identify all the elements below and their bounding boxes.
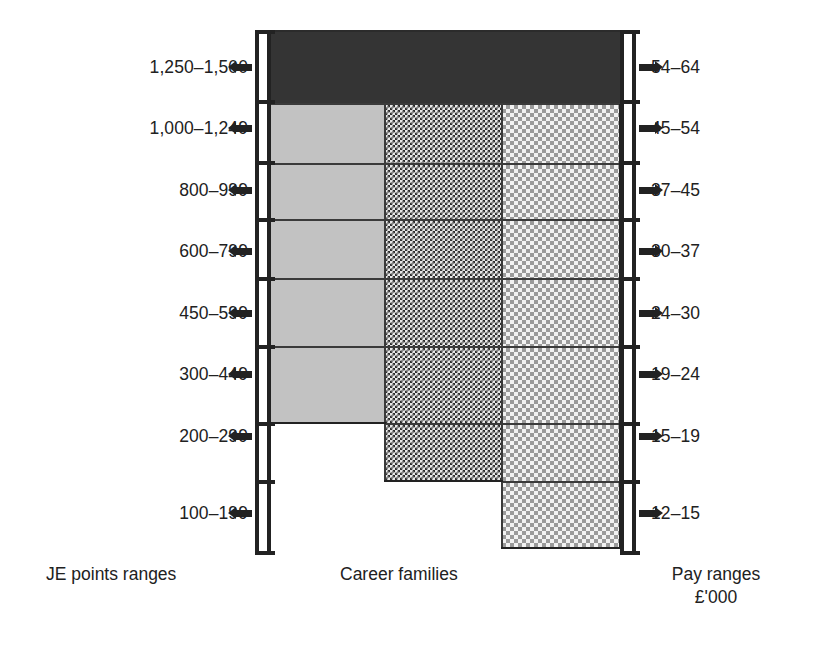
je-points-label-1: 1,250–1,500 <box>40 59 248 77</box>
left-tick-arrow-8 <box>235 510 252 517</box>
family3-band-5 <box>502 279 620 347</box>
left-axis-labels: 1,250–1,500 1,000–1,249 800–999 600–799 … <box>40 0 248 560</box>
je-points-label-2: 1,000–1,249 <box>40 120 248 138</box>
outline-family3-bottom <box>501 547 620 549</box>
right-axis-labels: 54–64 45–54 37–45 30–37 24–30 19–24 15–1… <box>651 0 820 560</box>
right-axis-div-6 <box>624 422 640 426</box>
left-axis-rail <box>255 30 271 555</box>
left-tick-arrow-4 <box>235 248 252 255</box>
left-axis-div-3 <box>259 218 275 222</box>
right-tick-arrow-6 <box>639 371 656 378</box>
left-axis-div-5 <box>259 345 275 349</box>
right-axis-div-2 <box>624 161 640 165</box>
left-axis-caption: JE points ranges <box>46 563 176 586</box>
right-tick-arrow-5 <box>639 310 656 317</box>
left-tick-arrow-2 <box>235 125 252 132</box>
career-family-grade-structure <box>255 30 636 555</box>
left-tick-arrow-3 <box>235 187 252 194</box>
pay-range-label-6: 19–24 <box>651 366 820 384</box>
center-caption: Career families <box>340 563 458 586</box>
right-axis-rail <box>620 30 636 555</box>
family1-band-5 <box>267 279 385 347</box>
family3-band-4 <box>502 220 620 279</box>
right-axis-caption-line2: £'000 <box>651 586 781 609</box>
right-axis-cap-bottom <box>624 551 640 555</box>
pay-range-label-2: 45–54 <box>651 120 820 138</box>
right-tick-arrow-2 <box>639 125 656 132</box>
right-axis-div-7 <box>624 480 640 484</box>
pay-range-label-7: 15–19 <box>651 428 820 446</box>
left-axis-div-6 <box>259 422 275 426</box>
je-points-label-4: 600–799 <box>40 243 248 261</box>
pay-range-label-8: 12–15 <box>651 505 820 523</box>
family3-band-3 <box>502 164 620 220</box>
je-points-label-8: 100–199 <box>40 505 248 523</box>
family1-band-3 <box>267 164 385 220</box>
family2-band-3 <box>385 164 502 220</box>
right-axis-div-3 <box>624 218 640 222</box>
family3-band-8 <box>502 482 620 549</box>
left-axis-cap-top <box>259 30 275 34</box>
right-axis-div-5 <box>624 345 640 349</box>
je-points-label-5: 450–599 <box>40 305 248 323</box>
family3-band-7 <box>502 424 620 482</box>
family3-band-2 <box>502 104 620 164</box>
right-tick-arrow-1 <box>639 64 656 71</box>
right-tick-arrow-7 <box>639 433 656 440</box>
right-axis-cap-top <box>624 30 640 34</box>
family2-band-4 <box>385 220 502 279</box>
left-tick-arrow-1 <box>235 64 252 71</box>
right-axis-caption-line1: Pay ranges <box>651 563 781 586</box>
pay-range-label-1: 54–64 <box>651 59 820 77</box>
je-points-label-7: 200–299 <box>40 428 248 446</box>
family1-band-2 <box>267 104 385 164</box>
je-points-label-3: 800–999 <box>40 182 248 200</box>
family2-band-2 <box>385 104 502 164</box>
left-tick-arrow-7 <box>235 433 252 440</box>
family2-band-7 <box>385 424 502 482</box>
left-tick-arrow-5 <box>235 310 252 317</box>
family2-band-5 <box>385 279 502 347</box>
je-points-label-6: 300–449 <box>40 366 248 384</box>
left-axis-div-7 <box>259 480 275 484</box>
family-separator-1 <box>384 104 386 482</box>
pay-range-label-5: 24–30 <box>651 305 820 323</box>
family2-band-6 <box>385 347 502 424</box>
left-axis-cap-bottom <box>259 551 275 555</box>
left-axis-div-4 <box>259 277 275 281</box>
pay-range-label-3: 37–45 <box>651 182 820 200</box>
right-axis-div-1 <box>624 100 640 104</box>
right-axis-div-4 <box>624 277 640 281</box>
family3-band-6 <box>502 347 620 424</box>
right-tick-arrow-8 <box>639 510 656 517</box>
family-separator-2 <box>501 104 503 549</box>
right-axis-caption: Pay ranges £'000 <box>651 563 781 609</box>
family1-band-6 <box>267 347 385 424</box>
family1-band-4 <box>267 220 385 279</box>
diagram-canvas: 1,250–1,500 1,000–1,249 800–999 600–799 … <box>0 0 820 647</box>
right-tick-arrow-3 <box>639 187 656 194</box>
left-tick-arrow-6 <box>235 371 252 378</box>
outline-family2-bottom <box>384 480 503 482</box>
right-tick-arrow-4 <box>639 248 656 255</box>
pay-range-label-4: 30–37 <box>651 243 820 261</box>
left-axis-div-2 <box>259 161 275 165</box>
outline-family1-bottom <box>267 422 386 424</box>
band-stack <box>267 30 620 555</box>
left-axis-div-1 <box>259 100 275 104</box>
band-row-1 <box>267 30 620 104</box>
